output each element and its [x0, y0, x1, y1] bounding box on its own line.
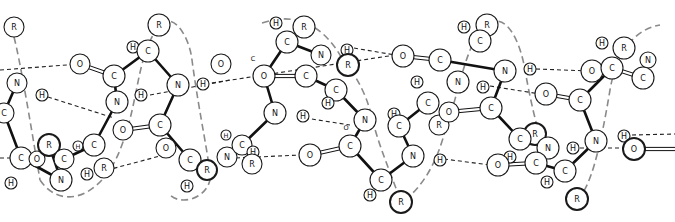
atom-carbon: C [525, 152, 547, 174]
atom-label: H [480, 83, 486, 92]
atom-label: H [76, 143, 81, 151]
atom-label: N [272, 109, 278, 118]
atom-label: R [532, 130, 538, 139]
atom-hydrogen: H [596, 37, 608, 49]
atom-label: R [621, 44, 627, 53]
atom-carbon: C [509, 128, 531, 150]
atom-label: N [545, 144, 551, 153]
atom-label: C [517, 135, 523, 144]
atom-carbon: C [469, 30, 491, 52]
atom-label: H [224, 132, 229, 140]
atom-nitrogen: N [447, 71, 469, 93]
atom-carbon: C [388, 115, 410, 137]
atom-carbon: C [632, 67, 654, 89]
atom-carbon: C [0, 103, 14, 123]
atom-label: C [157, 121, 163, 130]
atom-label: R [301, 23, 307, 32]
atom-label: N [58, 176, 64, 185]
atom-carbon: C [429, 49, 451, 71]
atom-oxygen: O [299, 144, 321, 166]
atom-hydrogen: H [364, 189, 376, 201]
hydrogen-bond [444, 159, 490, 165]
atom-hydrogen: H [297, 110, 309, 122]
atom-label: R [345, 61, 351, 70]
atom-hydrogen: H [477, 81, 489, 93]
atom-label: N [362, 116, 368, 125]
atom-nitrogen: N [311, 45, 331, 65]
atom-label: O [34, 155, 40, 164]
atom-carbon: C [103, 65, 125, 87]
atom-carbon: C [251, 55, 256, 63]
atom-oxygen: O [392, 45, 414, 67]
atom-oxygen: O [581, 60, 603, 82]
atom-label: N [593, 137, 599, 146]
atom-label: C [18, 154, 24, 163]
atom-label: H [414, 78, 420, 87]
atom-label: H [8, 179, 14, 188]
atom-label: C [1, 109, 7, 118]
atom-hydrogen: H [73, 141, 83, 151]
atom-label: C [187, 156, 193, 165]
atom-label: O [446, 108, 452, 117]
atom-hydrogen: H [181, 180, 193, 192]
atom-label: H [461, 23, 467, 32]
atom-label: R [436, 121, 442, 130]
hydrogen-bond [150, 80, 230, 95]
atom-hydrogen: H [135, 89, 147, 101]
atom-label: H [367, 191, 373, 200]
atom-label: C [61, 155, 67, 164]
atom-label: R [204, 166, 210, 175]
atom-label: O [543, 90, 549, 99]
atom-label: H [138, 91, 144, 100]
atom-label: C [425, 99, 431, 108]
atom-label: C [437, 56, 443, 65]
atom-hydrogen: H [411, 76, 423, 88]
atom-oxygen: O [70, 54, 90, 74]
atom-label: C [284, 38, 290, 47]
atom-hydrogen: H [197, 78, 209, 90]
atom-carbon: C [137, 40, 159, 62]
atom-oxygen: O [439, 102, 459, 122]
atom-label: O [343, 124, 348, 132]
atom-label: H [130, 43, 136, 52]
atom-label: R [484, 21, 490, 30]
atom-label: N [224, 153, 230, 162]
atom-label: O [307, 151, 313, 160]
atom-label: O [631, 145, 637, 154]
hydrogen-bond [632, 134, 675, 135]
atom-label: O [163, 144, 169, 153]
atom-hydrogen: H [458, 21, 470, 33]
atom-label: H [570, 144, 576, 153]
atom-carbon: C [276, 31, 298, 53]
atom-side-chain: R [613, 37, 635, 59]
atom-carbon: C [417, 92, 439, 114]
atom-label: C [577, 96, 583, 105]
atom-label: H [300, 112, 306, 121]
atom-side-chain: R [337, 54, 359, 76]
atom-label: H [273, 19, 279, 28]
atom-label: R [249, 160, 255, 169]
atom-label: R [11, 23, 17, 32]
atom-hydrogen: H [434, 154, 446, 166]
atom-oxygen: O [343, 124, 348, 132]
atom-side-chain: R [242, 154, 262, 174]
atom-oxygen: O [113, 120, 133, 140]
atom-label: H [527, 65, 533, 74]
atom-label: H [437, 156, 443, 165]
atom-carbon: C [295, 65, 317, 87]
atom-label: C [111, 72, 117, 81]
atom-label: O [400, 52, 406, 61]
atom-label: C [303, 72, 309, 81]
atom-hydrogen: H [36, 89, 48, 101]
atom-nitrogen: N [640, 52, 656, 68]
atom-hydrogen: H [270, 17, 282, 29]
atom-label: N [645, 56, 651, 65]
atom-label: R [574, 195, 580, 204]
atom-label: C [609, 64, 615, 73]
atom-label: N [502, 67, 508, 76]
atom-side-chain: R [197, 160, 217, 180]
atom-label: H [84, 170, 90, 179]
atom-carbon: C [370, 169, 392, 191]
atom-hydrogen: H [5, 177, 17, 189]
atom-nitrogen: N [402, 145, 424, 167]
